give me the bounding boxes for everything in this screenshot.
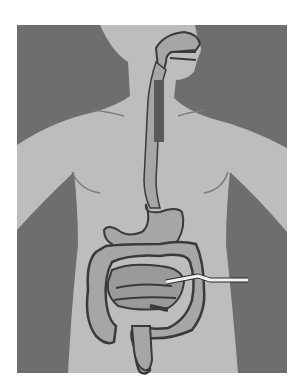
small-intestine	[108, 265, 184, 310]
digestive-system-figure	[0, 0, 304, 392]
